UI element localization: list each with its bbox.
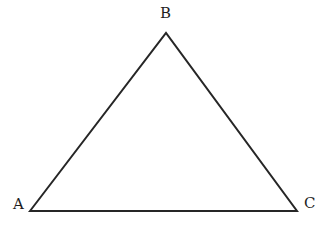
triangle-figure: A B C [0,0,334,230]
triangle-canvas [0,0,334,230]
vertex-label-c: C [304,196,315,211]
vertex-label-a: A [13,197,24,212]
vertex-label-b: B [160,6,171,21]
